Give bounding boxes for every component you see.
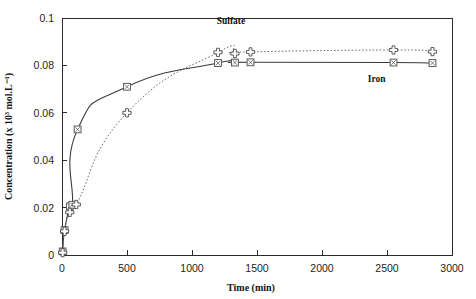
y-tick-label: 0 (48, 249, 54, 261)
concentration-vs-time-chart: 050010001500200025003000 00.020.040.060.… (0, 0, 476, 299)
series-annotations: SulfateIron (217, 16, 386, 84)
x-tick-label: 500 (118, 262, 136, 274)
x-axis-ticks (62, 250, 452, 255)
data-point-iron (124, 83, 131, 90)
chart-figure: 050010001500200025003000 00.020.040.060.… (0, 0, 476, 299)
series-line-iron (63, 60, 433, 251)
data-point-sulfate (231, 49, 239, 57)
annotation-iron: Iron (368, 74, 386, 84)
x-tick-label: 3000 (440, 262, 464, 274)
x-axis-title: Time (min) (227, 282, 275, 294)
x-tick-label: 2500 (375, 262, 399, 274)
x-tick-label: 1000 (180, 262, 204, 274)
y-tick-label: 0.08 (34, 59, 55, 71)
x-axis-tick-labels: 050010001500200025003000 (59, 262, 464, 274)
x-tick-label: 1500 (245, 262, 269, 274)
x-tick-label: 2000 (310, 262, 334, 274)
y-axis-tick-labels: 00.020.040.060.080.1 (34, 12, 55, 261)
data-point-sulfate (214, 48, 222, 56)
y-tick-label: 0.06 (34, 107, 55, 119)
data-point-sulfate (428, 48, 436, 56)
y-tick-label: 0.1 (39, 12, 54, 24)
data-point-sulfate (246, 48, 254, 56)
data-point-iron (74, 126, 81, 133)
y-tick-label: 0.02 (34, 202, 55, 214)
data-point-iron (232, 59, 239, 66)
data-point-sulfate (123, 109, 131, 117)
data-point-iron (390, 59, 397, 66)
data-point-sulfate (389, 46, 397, 54)
data-point-iron (247, 59, 254, 66)
data-point-iron (429, 60, 436, 67)
y-axis-title: Concentration (x 10³ mol.L⁻¹) (3, 73, 15, 200)
y-tick-label: 0.04 (34, 154, 55, 166)
annotation-sulfate: Sulfate (217, 16, 246, 26)
x-tick-label: 0 (59, 262, 65, 274)
data-point-iron (215, 60, 222, 67)
